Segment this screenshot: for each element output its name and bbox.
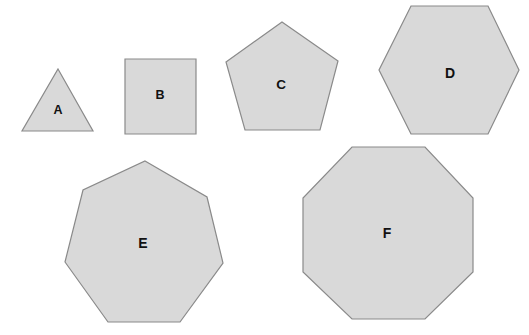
- shape-label-f: F: [383, 225, 392, 241]
- shape-group-a[interactable]: A: [22, 69, 93, 131]
- shape-group-d[interactable]: D: [379, 6, 519, 134]
- shape-label-c: C: [276, 77, 286, 92]
- polygon-diagram: A B C D E F: [0, 0, 529, 335]
- shape-group-b[interactable]: B: [125, 59, 196, 134]
- shape-label-e: E: [138, 235, 147, 251]
- shape-label-b: B: [155, 88, 164, 102]
- shape-label-a: A: [53, 103, 62, 117]
- triangle-shape-a[interactable]: [22, 69, 93, 131]
- shape-group-c[interactable]: C: [226, 22, 338, 130]
- shape-group-f[interactable]: F: [303, 147, 473, 319]
- shape-group-e[interactable]: E: [65, 161, 223, 322]
- shape-label-d: D: [445, 65, 455, 81]
- shapes-canvas: A B C D E F: [0, 0, 529, 335]
